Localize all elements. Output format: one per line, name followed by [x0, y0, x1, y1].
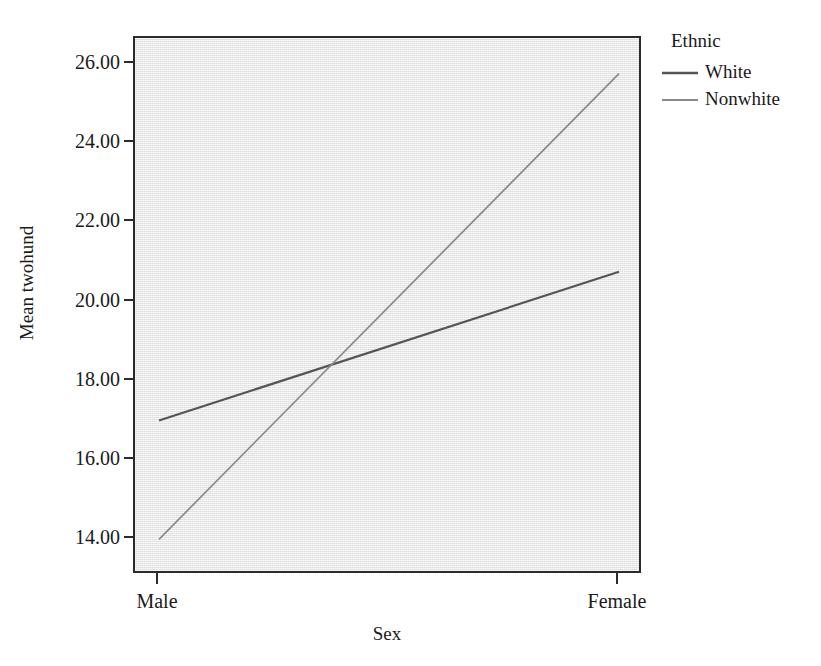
y-tick-label: 18.00 — [48, 369, 120, 389]
y-tick-mark — [124, 61, 133, 63]
line-icon — [662, 69, 698, 77]
x-axis-title: Sex — [133, 623, 641, 645]
y-tick-label: 20.00 — [48, 290, 120, 310]
legend-item-white[interactable]: White — [662, 58, 814, 85]
y-tick-mark — [124, 219, 133, 221]
plot-lines-svg — [135, 38, 641, 573]
y-tick-label: 24.00 — [48, 131, 120, 151]
legend-label-nonwhite: Nonwhite — [705, 88, 780, 110]
x-tick-mark — [156, 573, 158, 584]
y-axis-title: Mean twohund — [17, 193, 37, 373]
y-tick-label: 26.00 — [48, 52, 120, 72]
y-tick-mark — [124, 378, 133, 380]
x-tick-mark — [616, 573, 618, 584]
y-tick-mark — [124, 457, 133, 459]
x-tick-label: Female — [537, 589, 697, 613]
interaction-plot-figure: 14.0016.0018.0020.0022.0024.0026.00 Mean… — [0, 0, 821, 666]
legend-label-white: White — [705, 61, 751, 83]
legend-line-swatch-white — [662, 63, 698, 81]
legend: Ethnic White Nonwhite — [662, 30, 814, 112]
x-tick-label: Male — [77, 589, 237, 613]
y-tick-label: 22.00 — [48, 210, 120, 230]
y-tick-label: 14.00 — [48, 527, 120, 547]
y-tick-mark — [124, 299, 133, 301]
y-tick-mark — [124, 140, 133, 142]
legend-item-nonwhite[interactable]: Nonwhite — [662, 85, 814, 112]
legend-line-swatch-nonwhite — [662, 90, 698, 108]
line-icon — [662, 96, 698, 104]
y-axis-tick-labels: 14.0016.0018.0020.0022.0024.0026.00 — [38, 0, 120, 666]
plot-area — [133, 36, 641, 573]
series-line-white — [159, 272, 619, 421]
y-tick-mark — [124, 536, 133, 538]
legend-title: Ethnic — [671, 30, 814, 52]
series-line-nonwhite — [159, 74, 619, 540]
y-tick-label: 16.00 — [48, 448, 120, 468]
